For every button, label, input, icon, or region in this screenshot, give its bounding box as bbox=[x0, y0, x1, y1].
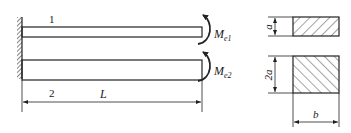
cantilever-beams-diagram: 1 2 Me1 Me2 L a 2a b bbox=[0, 0, 351, 133]
moment-arrow-2-icon bbox=[198, 52, 210, 81]
moment-arrow-1-icon bbox=[198, 15, 210, 44]
fixed-wall bbox=[17, 17, 22, 79]
beam-1-label: 1 bbox=[49, 13, 55, 25]
beam-2-label: 2 bbox=[49, 87, 55, 99]
section-2-width-label: b bbox=[313, 108, 319, 120]
beam-2 bbox=[22, 60, 202, 80]
cross-section-1 bbox=[268, 17, 339, 36]
moment-2-label: Me2 bbox=[213, 64, 232, 80]
cross-section-2 bbox=[268, 56, 339, 127]
section-2-height-label: 2a bbox=[262, 69, 274, 81]
moment-1-label: Me1 bbox=[213, 27, 232, 43]
length-label: L bbox=[99, 87, 107, 101]
section-1-height-label: a bbox=[262, 24, 274, 30]
beam-1 bbox=[22, 27, 202, 37]
